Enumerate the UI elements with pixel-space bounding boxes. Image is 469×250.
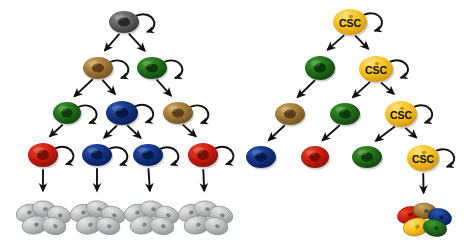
figure-canvas: CSCCSCCSCCSC bbox=[0, 0, 469, 250]
division-arrow bbox=[129, 34, 145, 51]
division-arrow bbox=[353, 82, 370, 98]
division-arrow bbox=[298, 80, 315, 97]
cell-highlight bbox=[251, 150, 261, 156]
cell-node-green[interactable] bbox=[330, 103, 361, 127]
division-arrow bbox=[203, 169, 204, 191]
lineage-diagram-svg: CSCCSCCSCCSC bbox=[0, 0, 469, 250]
cell-node-blue[interactable] bbox=[82, 144, 113, 168]
division-arrow bbox=[269, 125, 285, 140]
cell-node-green[interactable] bbox=[305, 56, 336, 82]
cell-node-red[interactable] bbox=[188, 143, 219, 169]
cell-highlight bbox=[193, 147, 203, 153]
node-layer: CSCCSCCSCCSC bbox=[14, 9, 454, 239]
cell-node-csc[interactable]: CSC bbox=[407, 145, 440, 173]
division-arrow bbox=[157, 80, 171, 96]
homogeneous-cell-cluster[interactable] bbox=[122, 199, 181, 236]
cell-highlight bbox=[138, 148, 148, 154]
cell-highlight bbox=[87, 148, 97, 154]
cell-highlight bbox=[112, 105, 123, 111]
homogeneous-cell-cluster[interactable] bbox=[176, 199, 235, 236]
cell-highlight bbox=[88, 61, 98, 67]
cell-highlight bbox=[114, 15, 124, 21]
division-arrow bbox=[127, 125, 141, 138]
heterogeneous-cell-cluster[interactable] bbox=[395, 201, 454, 238]
division-arrow bbox=[102, 80, 115, 94]
division-arrow bbox=[355, 36, 368, 49]
cell-node-red[interactable] bbox=[301, 146, 330, 170]
cell-node-csc[interactable]: CSC bbox=[359, 56, 394, 84]
cell-highlight bbox=[33, 147, 43, 153]
division-arrow bbox=[322, 125, 339, 140]
division-arrow bbox=[104, 126, 117, 138]
division-arrow bbox=[74, 79, 92, 96]
cell-label: CSC bbox=[339, 17, 362, 29]
cell-node-brown[interactable] bbox=[83, 57, 114, 81]
cell-highlight bbox=[310, 60, 320, 66]
cell-node-brown[interactable] bbox=[275, 103, 306, 127]
division-arrow bbox=[405, 128, 416, 138]
cell-node-csc[interactable]: CSC bbox=[333, 9, 368, 37]
cell-node-red[interactable] bbox=[28, 143, 59, 169]
division-arrow bbox=[105, 34, 120, 51]
cell-node-csc[interactable]: CSC bbox=[385, 101, 418, 129]
cell-node-green[interactable] bbox=[352, 146, 383, 170]
division-arrow bbox=[376, 126, 395, 141]
division-arrow bbox=[183, 125, 196, 137]
division-arrow bbox=[328, 35, 345, 50]
cell-highlight bbox=[168, 106, 178, 112]
cell-highlight bbox=[58, 106, 68, 112]
cell-node-green[interactable] bbox=[137, 57, 168, 81]
cell-highlight bbox=[280, 107, 290, 113]
cell-label: CSC bbox=[365, 64, 388, 76]
cell-highlight bbox=[142, 61, 152, 67]
homogeneous-cell-cluster[interactable] bbox=[14, 199, 73, 236]
cell-node-blue[interactable] bbox=[246, 146, 277, 170]
cell-label: CSC bbox=[412, 153, 435, 165]
cell-node-green[interactable] bbox=[53, 102, 82, 126]
cell-node-blue[interactable] bbox=[133, 144, 164, 168]
division-arrow bbox=[148, 168, 150, 191]
cell-label: CSC bbox=[390, 109, 413, 121]
cell-highlight bbox=[335, 107, 345, 113]
division-arrow bbox=[50, 125, 63, 137]
cell-node-blue[interactable] bbox=[106, 101, 139, 127]
cell-highlight bbox=[357, 150, 367, 156]
homogeneous-cell-cluster[interactable] bbox=[68, 199, 127, 236]
division-arrow bbox=[381, 83, 394, 94]
cell-node-brown[interactable] bbox=[163, 102, 194, 126]
cell-node-gray[interactable] bbox=[109, 11, 140, 35]
cell-highlight bbox=[306, 150, 316, 156]
